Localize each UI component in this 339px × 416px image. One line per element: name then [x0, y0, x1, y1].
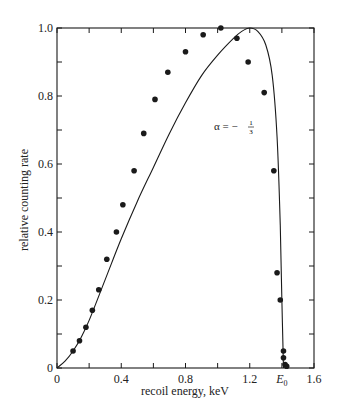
data-point — [77, 338, 83, 344]
data-point — [245, 59, 251, 65]
alpha-annotation-text: α = − — [214, 120, 238, 132]
data-point — [70, 348, 76, 354]
plot-frame — [57, 28, 314, 368]
data-point — [284, 364, 290, 370]
data-point — [96, 287, 102, 293]
data-point — [271, 168, 277, 174]
y-tick-label: 1.0 — [38, 21, 53, 35]
chart-figure: 00.40.81.2E01.600.20.40.60.81.0 recoil e… — [0, 0, 339, 416]
data-points — [70, 25, 289, 369]
data-point — [183, 49, 189, 55]
data-point — [120, 202, 126, 208]
data-point — [277, 297, 283, 303]
x-tick-label: 0.4 — [114, 372, 129, 386]
alpha-fraction-denominator: 3 — [249, 128, 253, 136]
y-tick-label: 0 — [47, 361, 53, 375]
x-tick-label: 1.6 — [307, 372, 322, 386]
y-tick-label: 0.6 — [38, 157, 53, 171]
data-point — [131, 168, 137, 174]
data-point — [90, 307, 96, 313]
theory-curve — [57, 28, 283, 368]
x-tick-label-e0: E0 — [275, 372, 287, 388]
data-point — [261, 90, 267, 96]
data-point — [281, 355, 287, 361]
data-point — [274, 270, 280, 276]
data-point — [234, 35, 240, 41]
alpha-annotation: α = − 1 3 — [214, 119, 254, 136]
y-tick-label: 0.8 — [38, 89, 53, 103]
y-tick-label: 0.2 — [38, 293, 53, 307]
theory-curve-path — [57, 28, 283, 368]
alpha-fraction-numerator: 1 — [249, 119, 253, 127]
x-tick-label: 1.2 — [242, 372, 257, 386]
data-point — [83, 324, 89, 330]
data-point — [281, 348, 287, 354]
x-tick-label: 0 — [54, 372, 60, 386]
data-point — [104, 256, 110, 262]
x-axis-label: recoil energy, keV — [141, 384, 229, 398]
data-point — [152, 97, 158, 103]
data-point — [218, 25, 224, 31]
data-point — [165, 69, 171, 75]
axis-ticks: 00.40.81.2E01.600.20.40.60.81.0 — [38, 21, 322, 388]
data-point — [141, 131, 147, 137]
data-point — [114, 229, 120, 235]
y-tick-label: 0.4 — [38, 225, 53, 239]
y-axis-label: relative counting rate — [17, 149, 31, 251]
data-point — [200, 32, 206, 38]
